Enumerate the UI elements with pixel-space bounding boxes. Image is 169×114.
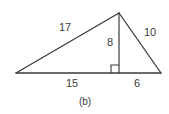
geometry-figure: 17 10 8 15 6 (b) <box>0 0 169 114</box>
label-right-side: 10 <box>144 27 156 38</box>
label-altitude: 8 <box>107 37 113 48</box>
label-base-left-segment: 15 <box>66 78 78 89</box>
label-left-hypotenuse: 17 <box>59 22 71 33</box>
right-angle-marker-icon <box>111 65 119 73</box>
right-side-line <box>119 13 161 73</box>
label-base-right-segment: 6 <box>134 78 140 89</box>
figure-caption: (b) <box>79 97 91 107</box>
